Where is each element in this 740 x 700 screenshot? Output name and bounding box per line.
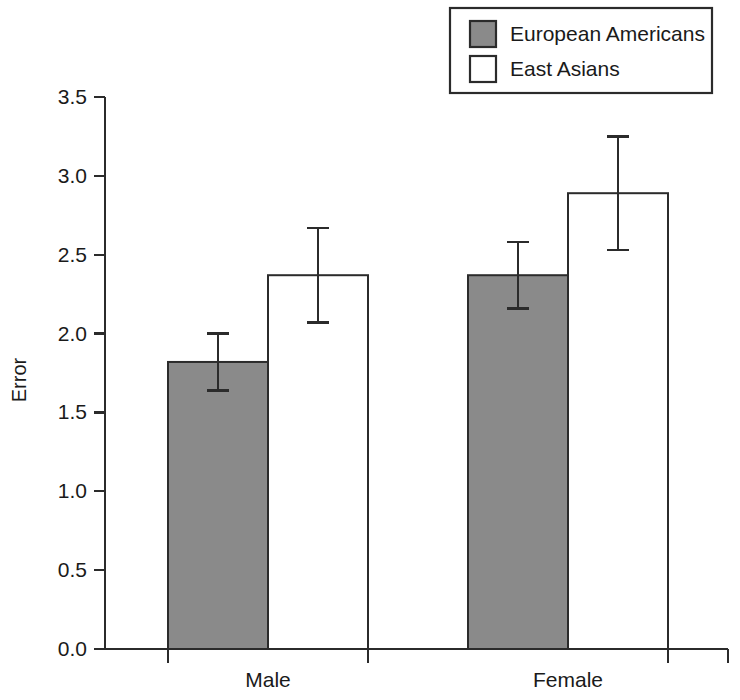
bar-female-east-asians <box>568 193 668 649</box>
legend-swatch-east-asians <box>470 56 496 82</box>
bar-male-east-asians <box>268 275 368 649</box>
legend-label-east-asians: East Asians <box>510 57 620 80</box>
y-tick-label: 3.5 <box>58 85 87 108</box>
bar-group <box>168 193 668 649</box>
y-tick-label: 1.5 <box>58 400 87 423</box>
legend-swatch-european-americans <box>470 21 496 47</box>
y-axis-title: Error <box>8 357 30 402</box>
x-axis-label-female: Female <box>533 668 603 691</box>
y-tick-label: 3.0 <box>58 164 87 187</box>
legend-label-european-americans: European Americans <box>510 22 705 45</box>
bar-chart-figure: European Americans East Asians Error 0.0… <box>0 0 740 700</box>
chart-canvas: European Americans East Asians Error 0.0… <box>0 0 740 700</box>
legend: European Americans East Asians <box>450 8 712 93</box>
y-axis-ticks: 0.00.51.01.52.02.53.03.5 <box>58 85 105 660</box>
y-tick-label: 0.0 <box>58 637 87 660</box>
y-tick-label: 0.5 <box>58 558 87 581</box>
category-labels: MaleFemale <box>245 668 603 691</box>
x-axis-ticks <box>168 649 728 663</box>
y-tick-label: 2.5 <box>58 243 87 266</box>
y-tick-label: 1.0 <box>58 479 87 502</box>
y-tick-label: 2.0 <box>58 322 87 345</box>
bar-male-european-americans <box>168 362 268 649</box>
x-axis-label-male: Male <box>245 668 291 691</box>
bar-female-european-americans <box>468 275 568 649</box>
